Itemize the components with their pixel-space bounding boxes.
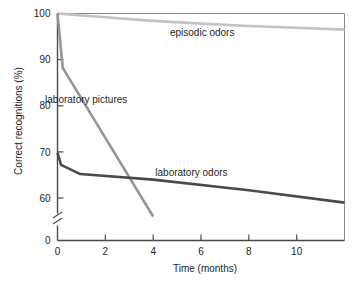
x-axis-ticks: 0246810: [55, 235, 303, 257]
series-label-episodic-odors: episodic odors: [170, 27, 234, 38]
x-tick-label: 10: [291, 246, 303, 257]
series-line-laboratory-pictures: [58, 14, 154, 217]
recognition-decay-line-chart: 0607080901000246810Time (months)Correct …: [0, 0, 357, 290]
series-group: [58, 14, 345, 217]
y-tick-label: 70: [39, 147, 51, 158]
y-tick-label: 60: [39, 193, 51, 204]
y-axis-break-icon: [53, 212, 62, 224]
x-tick-label: 6: [198, 246, 204, 257]
x-tick-label: 4: [150, 246, 156, 257]
y-tick-label: 0: [45, 235, 51, 246]
x-tick-label: 2: [103, 246, 109, 257]
series-label-laboratory-odors: laboratory odors: [155, 167, 227, 178]
x-tick-label: 0: [55, 246, 61, 257]
y-tick-label: 90: [39, 54, 51, 65]
y-axis-title: Correct recognitions (%): [13, 67, 24, 175]
x-tick-label: 8: [246, 246, 252, 257]
y-axis-ticks: 060708090100: [34, 8, 64, 246]
series-label-laboratory-pictures: laboratory pictures: [45, 94, 127, 105]
plot-frame: [58, 14, 345, 241]
series-labels: episodic odorslaboratory pictureslaborat…: [45, 27, 234, 178]
y-tick-label: 100: [34, 8, 51, 19]
x-axis-title: Time (months): [173, 263, 237, 274]
chart-figure: 0607080901000246810Time (months)Correct …: [0, 0, 357, 290]
